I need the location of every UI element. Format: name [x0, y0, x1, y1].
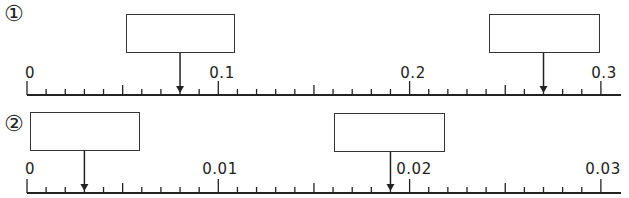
arrow-head-icon — [176, 86, 184, 93]
arrow-head-icon — [540, 86, 548, 93]
arrow-head-icon — [80, 184, 88, 191]
number-lines — [0, 0, 629, 198]
arrow-head-icon — [386, 184, 394, 191]
